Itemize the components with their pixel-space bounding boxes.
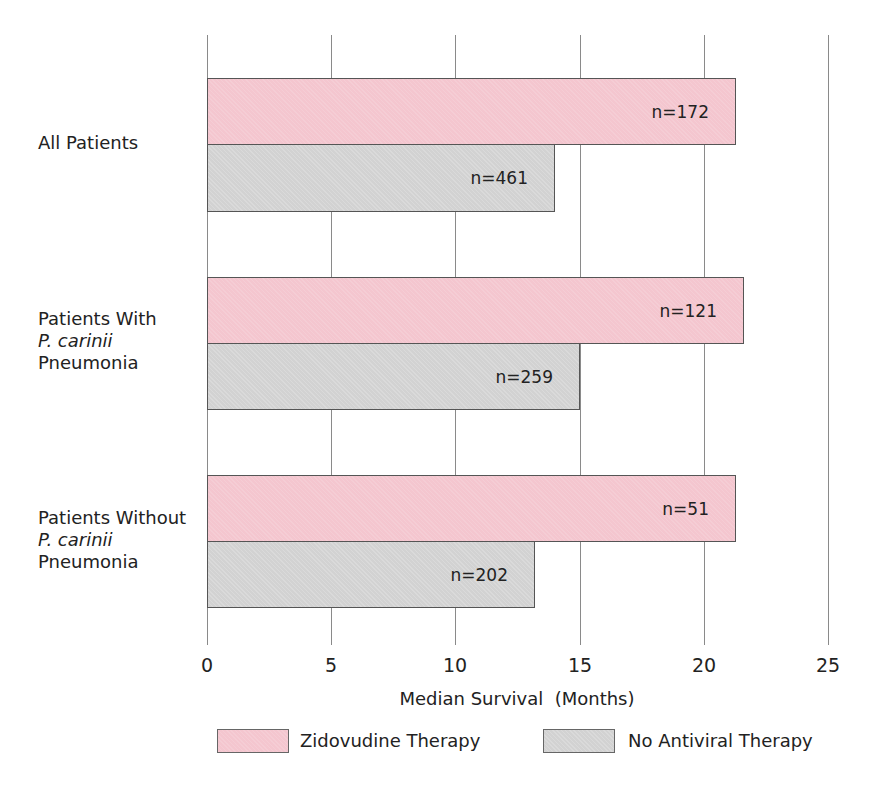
x-tick-20: 20 <box>692 654 716 676</box>
legend-swatch-zidovudine <box>217 729 289 753</box>
legend-label-no-antiviral: No Antiviral Therapy <box>628 730 813 751</box>
bar-chart: n=172 n=461 n=121 n=259 n=51 n=202 All P… <box>0 0 873 787</box>
category-label-without-pcp: Patients Without P. carinii Pneumonia <box>38 507 186 573</box>
gridline-25 <box>828 35 829 645</box>
label-line: Patients Without <box>38 507 186 529</box>
x-tick-0: 0 <box>201 654 213 676</box>
x-axis-title-text: Median Survival (Months) <box>399 688 634 709</box>
bar-zidovudine-all-patients: n=172 <box>207 78 736 145</box>
n-label: n=172 <box>652 102 709 122</box>
label-line-italic: P. carinii <box>38 330 157 352</box>
x-axis-title: Median Survival (Months) <box>0 688 873 709</box>
label-line: All Patients <box>38 132 138 154</box>
x-tick-5: 5 <box>325 654 337 676</box>
bar-zidovudine-without-pcp: n=51 <box>207 475 736 542</box>
bar-no-antiviral-all-patients: n=461 <box>207 144 555 212</box>
category-label-all-patients: All Patients <box>38 132 138 154</box>
n-label: n=461 <box>471 168 528 188</box>
label-line: Pneumonia <box>38 551 186 573</box>
category-label-with-pcp: Patients With P. carinii Pneumonia <box>38 308 157 374</box>
n-label: n=121 <box>660 301 717 321</box>
n-label: n=51 <box>662 499 709 519</box>
label-line-italic: P. carinii <box>38 529 186 551</box>
label-line: Patients With <box>38 308 157 330</box>
bar-no-antiviral-with-pcp: n=259 <box>207 343 580 410</box>
x-tick-10: 10 <box>443 654 467 676</box>
legend-swatch-no-antiviral <box>543 729 615 753</box>
x-tick-25: 25 <box>816 654 840 676</box>
n-label: n=202 <box>451 565 508 585</box>
legend-label-zidovudine: Zidovudine Therapy <box>300 730 480 751</box>
label-line: Pneumonia <box>38 352 157 374</box>
x-tick-15: 15 <box>568 654 592 676</box>
bar-no-antiviral-without-pcp: n=202 <box>207 541 535 608</box>
n-label: n=259 <box>496 367 553 387</box>
bar-zidovudine-with-pcp: n=121 <box>207 277 744 344</box>
